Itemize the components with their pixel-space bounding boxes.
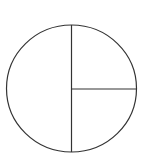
fraction-circle-diagram (0, 0, 141, 165)
